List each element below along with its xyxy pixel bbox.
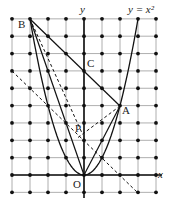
curve-label: y = x² (127, 3, 155, 15)
segment-BO (30, 19, 84, 175)
point-P-label: P (75, 122, 81, 134)
point-A-label: A (122, 104, 130, 116)
origin-label: O (73, 178, 81, 190)
y-axis-label: y (79, 3, 85, 15)
point-B-label: B (18, 18, 25, 30)
x-axis-label: x (157, 168, 163, 180)
solid-segments (30, 19, 120, 175)
point-C-label: C (87, 57, 94, 69)
segment-BA (30, 19, 120, 106)
parabola-diagram: y y = x² x O A B C P (0, 0, 170, 198)
